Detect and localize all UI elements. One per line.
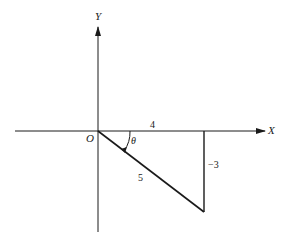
adjacent-side-label: 4 — [150, 119, 155, 130]
origin-label: O — [86, 132, 94, 144]
x-axis-label: X — [267, 124, 276, 136]
hypotenuse — [98, 131, 204, 212]
y-axis-label: Y — [95, 10, 103, 22]
opposite-side-label: −3 — [208, 159, 219, 170]
angle-label: θ — [131, 135, 136, 146]
reference-triangle-diagram: Y X O 4 −3 5 θ — [0, 0, 291, 244]
hypotenuse-label: 5 — [138, 172, 143, 183]
